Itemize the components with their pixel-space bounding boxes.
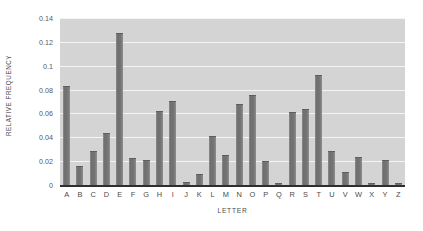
y-axis-title: RELATIVE FREQUENCY	[0, 0, 18, 190]
bar-d	[103, 133, 110, 185]
bar-t	[315, 75, 322, 185]
bar-c	[90, 151, 97, 185]
x-axis-tick-label-o: O	[246, 188, 259, 202]
bar-slot	[179, 18, 192, 185]
bar-slot	[312, 18, 325, 185]
bar-b	[76, 166, 83, 185]
x-axis-tick-label-k: K	[193, 188, 206, 202]
bar-l	[209, 136, 216, 185]
bar-slot	[339, 18, 352, 185]
letter-frequency-bar-chart: RELATIVE FREQUENCY 00.020.040.060.080.10…	[0, 0, 423, 231]
x-axis-tick-label-z: Z	[392, 188, 405, 202]
bar-slot	[87, 18, 100, 185]
bar-slot	[352, 18, 365, 185]
y-axis-title-text: RELATIVE FREQUENCY	[6, 54, 13, 135]
bar-p	[262, 161, 269, 185]
bar-series	[60, 18, 405, 185]
bar-n	[236, 104, 243, 185]
x-axis-tick-label-d: D	[100, 188, 113, 202]
x-axis-tick-label-f: F	[126, 188, 139, 202]
x-axis-tick-label-c: C	[87, 188, 100, 202]
bar-slot	[206, 18, 219, 185]
bar-slot	[113, 18, 126, 185]
bar-s	[302, 109, 309, 185]
bar-v	[342, 172, 349, 185]
x-axis-tick-label-x: X	[365, 188, 378, 202]
y-axis-tick-label: 0.14	[39, 14, 53, 23]
x-axis-tick-label-b: B	[73, 188, 86, 202]
x-axis-tick-label-u: U	[325, 188, 338, 202]
bar-slot	[60, 18, 73, 185]
x-axis-tick-label-n: N	[232, 188, 245, 202]
x-axis-tick-label-y: Y	[378, 188, 391, 202]
y-axis-tick-label: 0.1	[43, 61, 53, 70]
x-axis-tick-label-h: H	[153, 188, 166, 202]
bar-g	[143, 160, 150, 185]
bar-slot	[153, 18, 166, 185]
bar-m	[222, 155, 229, 185]
bar-slot	[140, 18, 153, 185]
bar-r	[289, 112, 296, 185]
bar-y	[382, 160, 389, 185]
x-axis-tick-label-l: L	[206, 188, 219, 202]
bar-slot	[232, 18, 245, 185]
y-axis-tick-label: 0.08	[39, 85, 53, 94]
bar-slot	[246, 18, 259, 185]
bar-slot	[378, 18, 391, 185]
x-axis-tick-label-p: P	[259, 188, 272, 202]
bar-o	[249, 95, 256, 185]
x-axis-tick-label-q: Q	[272, 188, 285, 202]
plot-area	[60, 18, 405, 185]
bar-slot	[100, 18, 113, 185]
bar-slot	[259, 18, 272, 185]
bar-slot	[73, 18, 86, 185]
x-axis-line	[60, 185, 405, 187]
x-axis-tick-label-s: S	[299, 188, 312, 202]
x-axis-tick-label-j: J	[179, 188, 192, 202]
x-axis-tick-labels: ABCDEFGHIJKLMNOPQRSTUVWXYZ	[60, 188, 405, 202]
x-axis-title: LETTER	[60, 207, 405, 214]
bar-slot	[392, 18, 405, 185]
bar-slot	[286, 18, 299, 185]
x-axis-tick-label-e: E	[113, 188, 126, 202]
bar-slot	[193, 18, 206, 185]
bar-slot	[299, 18, 312, 185]
bar-i	[169, 101, 176, 186]
x-axis-tick-label-a: A	[60, 188, 73, 202]
x-axis-tick-label-i: I	[166, 188, 179, 202]
bar-slot	[126, 18, 139, 185]
bar-slot	[272, 18, 285, 185]
bar-u	[328, 151, 335, 185]
bar-h	[156, 111, 163, 185]
x-axis-tick-label-g: G	[140, 188, 153, 202]
y-axis-tick-label: 0.02	[39, 157, 53, 166]
bar-slot	[365, 18, 378, 185]
bar-f	[129, 158, 136, 185]
y-axis-tick-label: 0.12	[39, 37, 53, 46]
x-axis-tick-label-t: T	[312, 188, 325, 202]
y-axis-tick-label: 0	[49, 181, 53, 190]
bar-w	[355, 157, 362, 185]
bar-slot	[325, 18, 338, 185]
x-axis-tick-label-w: W	[352, 188, 365, 202]
y-axis-tick-label: 0.04	[39, 133, 53, 142]
bar-a	[63, 86, 70, 185]
y-axis-tick-label: 0.06	[39, 109, 53, 118]
bar-k	[196, 174, 203, 185]
x-axis-tick-label-v: V	[339, 188, 352, 202]
bar-e	[116, 33, 123, 185]
x-axis-tick-label-r: R	[286, 188, 299, 202]
x-axis-tick-label-m: M	[219, 188, 232, 202]
y-axis-tick-labels: 00.020.040.060.080.10.120.14	[18, 0, 58, 231]
bar-slot	[219, 18, 232, 185]
bar-slot	[166, 18, 179, 185]
